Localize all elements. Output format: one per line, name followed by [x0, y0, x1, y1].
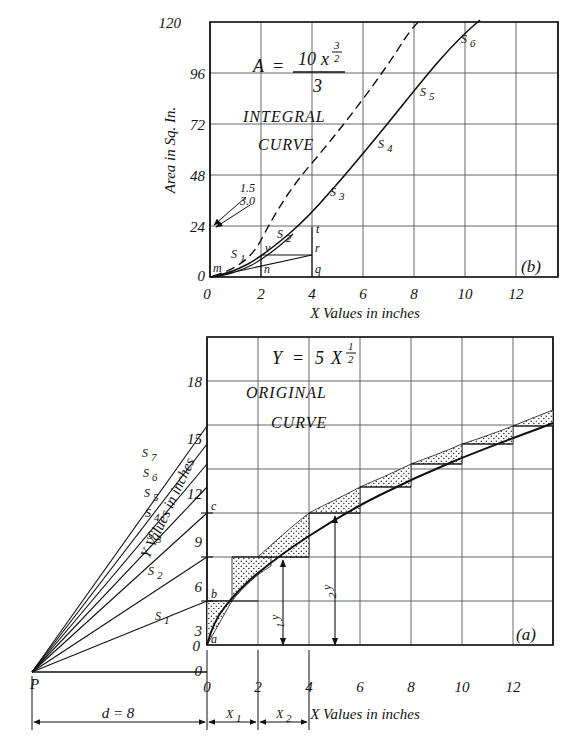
- panel-b-integral-curve-line: [211, 20, 480, 277]
- panel-b-point-t: t: [316, 222, 320, 236]
- ray-S7: [32, 426, 207, 672]
- panel-b-point-r: r: [315, 241, 320, 255]
- panel-a-caption-line1: ORIGINAL: [246, 384, 327, 401]
- pole-origin-label: 0: [193, 638, 201, 654]
- panel-b-point-m: m: [213, 261, 222, 275]
- panel-b-seg-S5: S: [420, 85, 426, 99]
- panel-b-y-axis-label: Area in Sq. In.: [162, 107, 178, 195]
- dim-label-X1: X: [225, 707, 234, 721]
- ray-S2: [32, 557, 207, 672]
- panel-b-xtick-0: 0: [203, 286, 211, 302]
- panel-a-original-curve: Y = 5 X 1 2 ORIGINAL CURVE a b c y 1 y 2…: [137, 337, 553, 722]
- ray-S5: [32, 464, 207, 672]
- panel-b-annotation-2: 3.0: [239, 194, 255, 208]
- ray-label-S5-sub: 5: [153, 491, 159, 503]
- panel-a-eq-equals: =: [292, 348, 304, 368]
- panel-b-xtick-6: 6: [359, 286, 367, 302]
- panel-b-seg-S4-sub: 4: [387, 142, 393, 154]
- pole-label-P: P: [29, 676, 39, 692]
- panel-b-ytick-24: 24: [190, 219, 206, 235]
- ray-label-S6: S: [143, 466, 149, 480]
- panel-b-ytick-120: 120: [159, 15, 182, 31]
- ray-label-S2: S: [148, 564, 154, 578]
- panel-a-xtick-6: 6: [356, 679, 364, 695]
- ray-label-S2-sub: 2: [157, 569, 163, 581]
- ray-label-S7: S: [142, 446, 148, 460]
- panel-a-xtick-10: 10: [455, 679, 471, 695]
- panel-b-construction-lines: [211, 227, 312, 277]
- ray-label-S1-sub: 1: [164, 614, 170, 626]
- panel-b-caption-line1: INTEGRAL: [242, 108, 326, 125]
- engineering-figure: A = 10 x 3 2 3 INTEGRAL CURVE 1.5 3.0 S …: [0, 0, 577, 749]
- ray-label-S1: S: [155, 609, 161, 623]
- ray-label-S4-sub: 4: [154, 511, 160, 523]
- panel-a-eq-exp-num: 1: [348, 340, 354, 352]
- dim-label-X2-sub: 2: [286, 712, 292, 724]
- ray-label-S5: S: [144, 486, 150, 500]
- ray-S1: [32, 601, 207, 672]
- panel-a-dim-y2-sub: 2: [326, 592, 338, 598]
- panel-b-seg-S3-sub: 3: [338, 190, 345, 202]
- ray-label-S6-sub: 6: [152, 471, 158, 483]
- dim-label-X1-sub: 1: [236, 712, 242, 724]
- panel-b-point-v: v: [265, 241, 271, 255]
- panel-b-annotation-1: 1.5: [240, 181, 255, 195]
- panel-b-seg-S6-sub: 6: [470, 37, 476, 49]
- panel-b-eq-equals: =: [272, 56, 284, 76]
- panel-a-ytick-3: 3: [194, 623, 203, 639]
- panel-b-eq-coef: 10: [298, 49, 316, 69]
- pole-ray-labels: S 1 S 2 S 3 S 4 S 5 S 6 S 7: [142, 446, 170, 626]
- panel-a-y-dimension-labels: y 1 y 2: [268, 584, 338, 628]
- panel-b-eq-denominator: 3: [312, 76, 322, 96]
- panel-b-x-axis-label: X Values in inches: [309, 305, 420, 321]
- panel-b-eq-lhs: A: [252, 56, 265, 76]
- panel-b-ytick-96: 96: [190, 66, 206, 82]
- panel-b-xtick-4: 4: [308, 286, 316, 302]
- figure-canvas: A = 10 x 3 2 3 INTEGRAL CURVE 1.5 3.0 S …: [0, 0, 577, 749]
- panel-a-ytick-9: 9: [195, 534, 203, 550]
- pole-ray-diagram: S 1 S 2 S 3 S 4 S 5 S 6 S 7 P 0 d = 8: [29, 426, 309, 730]
- panel-a-ytick-0: 0: [195, 663, 203, 679]
- panel-b-equation: A = 10 x 3 2 3: [252, 39, 345, 96]
- panel-b-ytick-48: 48: [190, 168, 206, 184]
- panel-a-xtick-12: 12: [506, 679, 522, 695]
- panel-b-xtick-2: 2: [257, 286, 265, 302]
- pole-distance-label: d = 8: [102, 705, 135, 721]
- panel-a-point-b: b: [211, 587, 217, 601]
- panel-a-ytick-18: 18: [187, 374, 203, 390]
- panel-a-point-c: c: [211, 499, 217, 513]
- panel-b-x-axis: 0 2 4 6 8 10 12 X Values in inches: [203, 286, 524, 321]
- panel-b-seg-S4: S: [378, 137, 384, 151]
- panel-a-equation: Y = 5 X 1 2: [272, 340, 356, 368]
- panel-b-ytick-0: 0: [198, 268, 206, 284]
- panel-a-original-curve-line: [207, 423, 553, 645]
- panel-a-stipple-areas: [207, 410, 553, 645]
- panel-b-seg-S3: S: [330, 185, 336, 199]
- panel-b-tag: (b): [521, 257, 541, 276]
- ray-S4: [32, 487, 207, 672]
- panel-b-eq-exp-den: 2: [334, 52, 340, 64]
- panel-b-seg-S5-sub: 5: [429, 90, 435, 102]
- panel-b-eq-exp-num: 3: [333, 39, 340, 51]
- panel-b-seg-S6: S: [461, 32, 467, 46]
- panel-b-xtick-12: 12: [509, 286, 525, 302]
- panel-b-ytick-72: 72: [190, 117, 206, 133]
- pole-rays: [32, 426, 207, 672]
- panel-b-seg-S2: S: [277, 227, 283, 241]
- panel-b-y-axis: 120 96 72 48 24 0 Area in Sq. In.: [159, 15, 206, 284]
- panel-a-dim-y2: y: [320, 584, 334, 591]
- panel-b-eq-var: x: [320, 49, 329, 69]
- panel-a-caption-line2: CURVE: [271, 414, 327, 431]
- ray-S3: [32, 513, 207, 672]
- panel-b-caption-line2: CURVE: [258, 136, 314, 153]
- panel-b-xtick-10: 10: [458, 286, 474, 302]
- panel-b-seg-S1-sub: 1: [240, 252, 246, 264]
- panel-a-dim-y1: y: [268, 614, 282, 621]
- panel-a-point-a: a: [211, 632, 217, 646]
- panel-a-tag: (a): [516, 625, 536, 644]
- panel-b-seg-S2-sub: 2: [286, 232, 292, 244]
- ray-label-S7-sub: 7: [151, 451, 157, 463]
- panel-a-eq-exp-den: 2: [348, 353, 354, 365]
- panel-a-eq-var: X: [330, 348, 343, 368]
- panel-a-ytick-6: 6: [195, 579, 203, 595]
